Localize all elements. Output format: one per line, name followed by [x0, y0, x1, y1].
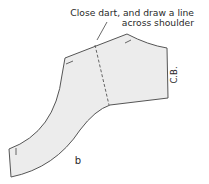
pattern-piece-outline — [9, 34, 168, 177]
pattern-diagram: Close dart, and draw a line across shoul… — [0, 0, 209, 184]
annotation-leader-line — [97, 22, 107, 40]
center-back-label: C.B. — [169, 66, 179, 83]
figure-label: b — [75, 155, 81, 166]
annotation-text-line2: across shoulder — [122, 17, 194, 28]
